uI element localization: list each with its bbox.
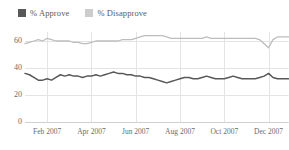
y-axis-tick-label: 20 — [0, 91, 22, 99]
x-axis-tick-label: Aug 2007 — [165, 128, 195, 136]
chart-container: % Approve % Disapprove 0204060 Feb 2007A… — [0, 0, 289, 150]
x-axis-tick-label: Dec 2007 — [254, 128, 283, 136]
horizontal-gridlines — [25, 42, 289, 123]
y-axis-tick-label: 0 — [0, 118, 22, 126]
y-axis-tick-label: 40 — [0, 64, 22, 72]
plot-area: 0204060 Feb 2007Apr 2007Jun 2007Aug 2007… — [0, 0, 289, 150]
x-axis-tick-label: Oct 2007 — [210, 128, 238, 136]
x-axis-tick-label: Apr 2007 — [77, 128, 106, 136]
y-axis-tick-label: 60 — [0, 37, 22, 45]
x-axis-tick-label: Feb 2007 — [33, 128, 61, 136]
x-axis-tick-label: Jun 2007 — [122, 128, 149, 136]
series-lines — [25, 36, 289, 83]
